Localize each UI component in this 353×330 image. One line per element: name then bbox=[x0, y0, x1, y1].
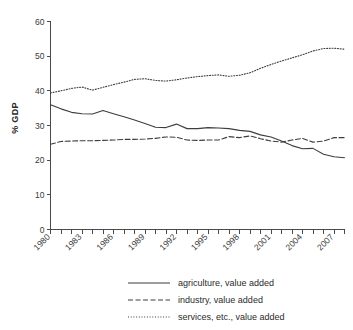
y-tick-label: 50 bbox=[35, 51, 45, 61]
y-tick-label: 60 bbox=[35, 17, 45, 27]
series-line-solid bbox=[51, 105, 345, 158]
legend-label: industry, value added bbox=[178, 295, 263, 305]
legend-label: agriculture, value added bbox=[178, 278, 274, 288]
x-tick-label: 1995 bbox=[189, 232, 210, 253]
chart-container: 0102030405060198019831986198919921995199… bbox=[0, 0, 353, 330]
x-tick-label: 1992 bbox=[157, 232, 178, 253]
line-chart: 0102030405060198019831986198919921995199… bbox=[0, 0, 353, 330]
legend: agriculture, value addedindustry, value … bbox=[128, 278, 285, 322]
legend-label: services, etc., value added bbox=[178, 312, 285, 322]
x-tick-label: 2001 bbox=[252, 232, 273, 253]
axes-group: 0102030405060198019831986198919921995199… bbox=[31, 17, 344, 253]
x-tick-label: 2004 bbox=[283, 232, 304, 253]
x-tick-label: 2007 bbox=[315, 232, 336, 253]
y-tick-label: 10 bbox=[35, 190, 45, 200]
y-tick-label: 20 bbox=[35, 155, 45, 165]
y-tick-label: 40 bbox=[35, 86, 45, 96]
x-tick-label: 1980 bbox=[31, 232, 52, 253]
x-tick-label: 1986 bbox=[94, 232, 115, 253]
series-line-dashed bbox=[51, 136, 345, 144]
x-tick-label: 1989 bbox=[126, 232, 147, 253]
x-tick-label: 1998 bbox=[220, 232, 241, 253]
x-tick-label: 1983 bbox=[63, 232, 84, 253]
series-group bbox=[51, 48, 345, 158]
y-tick-label: 30 bbox=[35, 121, 45, 131]
series-line-dotted bbox=[51, 48, 345, 93]
y-axis-title: % GDP bbox=[10, 102, 20, 134]
